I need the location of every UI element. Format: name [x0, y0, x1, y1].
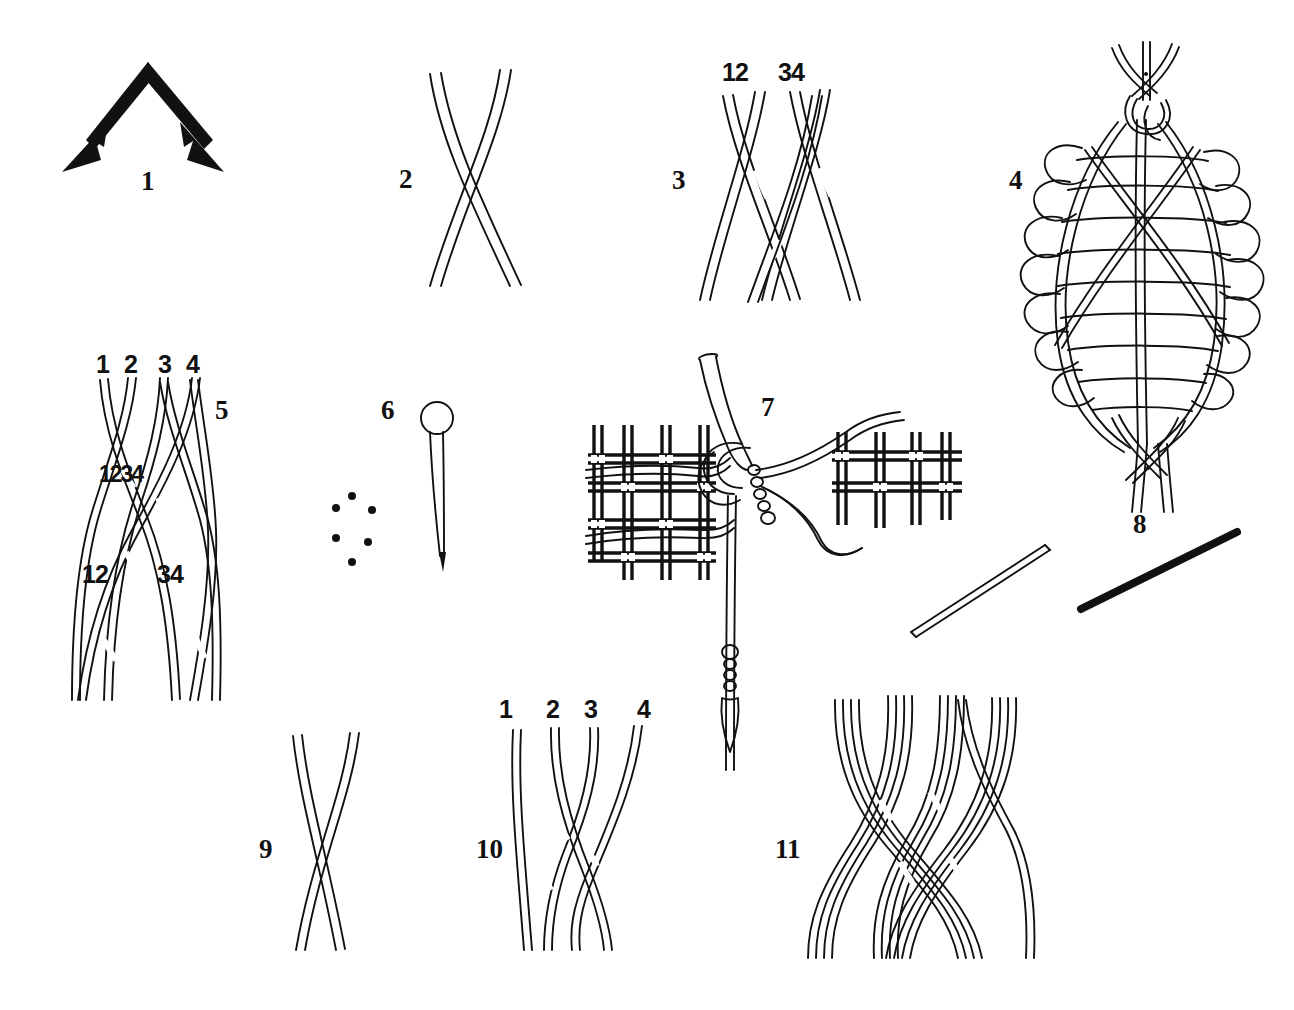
- figure-number-3: 3: [672, 167, 686, 194]
- dot-1: [348, 492, 356, 500]
- figure-4-woven-oval-cage: [1021, 42, 1264, 512]
- fig10-strand-label-1: 1: [499, 697, 513, 722]
- figure-number-6: 6: [381, 397, 395, 424]
- figure-number-4: 4: [1009, 167, 1023, 194]
- figure-number-8: 8: [1133, 511, 1147, 538]
- fig3-strand-label-12: 12: [722, 60, 748, 85]
- dot-4: [332, 534, 340, 542]
- figure-8-rods: [911, 532, 1237, 637]
- figure-1-chevron-arrows: [62, 62, 224, 172]
- fig5-strand-label-mid-1234: 1234: [99, 463, 142, 486]
- fig5-strand-label-top-4: 4: [186, 352, 200, 377]
- figure-10-flat-braid: [512, 726, 642, 950]
- fabric-right: [832, 432, 962, 528]
- figure-9-two-strand-cross: [293, 733, 359, 950]
- fig3-strand-label-34: 34: [778, 60, 804, 85]
- figure-number-2: 2: [399, 166, 413, 193]
- fabric-left: [588, 425, 716, 580]
- fig5-strand-label-top-3: 3: [158, 352, 172, 377]
- fig5-strand-label-top-1: 1: [96, 352, 110, 377]
- figure-number-7: 7: [761, 394, 775, 421]
- figure-3-paired-cross: [700, 90, 860, 302]
- figure-number-11: 11: [775, 836, 801, 863]
- plate-linework: .ln { fill:none; stroke:#111; stroke-wid…: [0, 0, 1294, 1010]
- fig10-strand-label-3: 3: [584, 697, 598, 722]
- rod-outline-edge-b: [916, 550, 1050, 637]
- cage-bottom-braid: [1112, 415, 1185, 512]
- fig10-strand-label-4: 4: [637, 697, 651, 722]
- figure-5-braid-sequence: [72, 378, 221, 700]
- figure-6-pin-and-dots: [332, 402, 453, 572]
- rod-solid: [1081, 532, 1237, 609]
- illustration-plate: .ln { fill:none; stroke:#111; stroke-wid…: [0, 0, 1294, 1010]
- rod-outline-edge-a: [911, 545, 1045, 632]
- figure-number-9: 9: [259, 836, 273, 863]
- dot-6: [348, 558, 356, 566]
- figure-2-two-strand-cross: [430, 70, 521, 286]
- fig5-strand-label-low-12: 12: [82, 562, 108, 587]
- figure-number-1: 1: [141, 168, 155, 195]
- dot-2: [332, 504, 340, 512]
- figure-11-compound-braid: [808, 696, 1034, 958]
- figure-number-5: 5: [215, 397, 229, 424]
- fig5-strand-label-top-2: 2: [124, 352, 138, 377]
- fig10-strand-label-2: 2: [546, 697, 560, 722]
- dot-5: [364, 538, 372, 546]
- fig5-strand-label-low-34: 34: [157, 562, 183, 587]
- figure-number-10: 10: [476, 836, 503, 863]
- dot-3: [368, 506, 376, 514]
